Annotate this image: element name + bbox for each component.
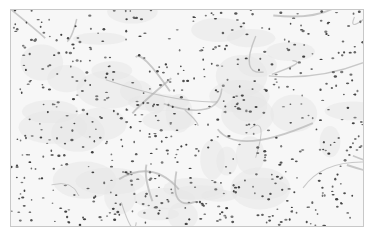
tissue-texture <box>11 10 363 226</box>
micrograph-image <box>10 9 364 227</box>
